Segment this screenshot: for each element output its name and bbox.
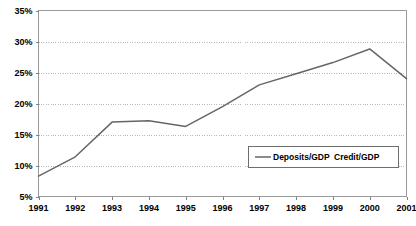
x-axis-label-1995: 1995 [176, 203, 196, 213]
x-axis-label-1998: 1998 [286, 203, 306, 213]
x-axis-label-2000: 2000 [360, 203, 380, 213]
chart-legend: Deposits/GDPCredit/GDP [249, 147, 399, 168]
y-axis-label-5%: 5% [19, 192, 32, 202]
x-axis-label-1991: 1991 [28, 203, 48, 213]
x-axis-label-2001: 2001 [396, 203, 416, 213]
chart-container: 5%10%15%20%25%30%35% 1991199219931994199… [0, 0, 416, 226]
legend-items: Deposits/GDPCredit/GDP [255, 152, 380, 162]
y-axis-label-10%: 10% [14, 161, 32, 171]
y-axis-label-15%: 15% [14, 130, 32, 140]
y-axis-label-30%: 30% [14, 37, 32, 47]
x-axis-label-1996: 1996 [212, 203, 232, 213]
x-axis-label-1999: 1999 [323, 203, 343, 213]
legend-label-credit-gdp: Credit/GDP [334, 152, 380, 162]
x-axis-label-1997: 1997 [249, 203, 269, 213]
chart-background [0, 0, 416, 226]
y-axis-label-35%: 35% [14, 6, 32, 16]
y-axis-label-20%: 20% [14, 99, 32, 109]
line-chart: 5%10%15%20%25%30%35% 1991199219931994199… [0, 0, 416, 226]
x-axis-label-1994: 1994 [139, 203, 159, 213]
x-axis-label-1992: 1992 [65, 203, 85, 213]
y-axis-label-25%: 25% [14, 68, 32, 78]
legend-label-deposits-gdp: Deposits/GDP [273, 152, 330, 162]
x-axis-label-1993: 1993 [102, 203, 122, 213]
